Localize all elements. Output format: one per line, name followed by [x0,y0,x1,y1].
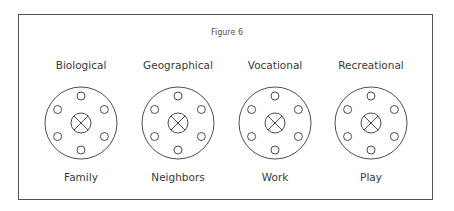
network-diagram [0,0,454,211]
member-node-icon [367,146,375,154]
member-node-icon [100,133,108,141]
member-node-icon [174,146,182,154]
member-node-icon [294,133,302,141]
member-node-icon [248,106,256,114]
member-node-icon [248,133,256,141]
member-node-icon [151,106,159,114]
member-node-icon [271,146,279,154]
member-node-icon [151,133,159,141]
member-node-icon [77,146,85,154]
member-node-icon [174,92,182,100]
member-node-icon [344,133,352,141]
member-node-icon [54,106,62,114]
member-node-icon [197,133,205,141]
member-node-icon [100,106,108,114]
member-node-icon [271,92,279,100]
member-node-icon [344,106,352,114]
member-node-icon [367,92,375,100]
circle-group-biological [45,87,117,159]
circle-group-geographical [142,87,214,159]
member-node-icon [77,92,85,100]
member-node-icon [197,106,205,114]
circle-group-vocational [239,87,311,159]
member-node-icon [54,133,62,141]
circle-group-recreational [335,87,407,159]
member-node-icon [294,106,302,114]
member-node-icon [390,106,398,114]
member-node-icon [390,133,398,141]
